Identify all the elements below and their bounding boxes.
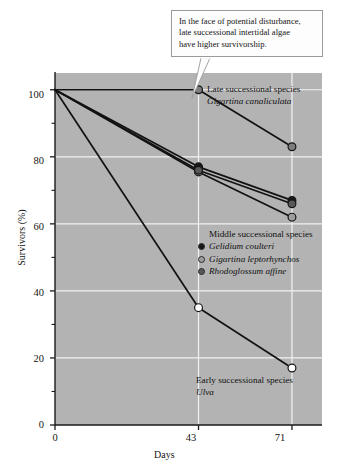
legend-marker-icon bbox=[198, 243, 205, 250]
annotation-early-successional: Early successional species Ulva bbox=[196, 375, 293, 398]
y-tick-label-0: 0 bbox=[18, 419, 44, 430]
x-tick-label-71: 71 bbox=[265, 432, 295, 443]
y-tick-label-20: 20 bbox=[18, 353, 44, 364]
x-tick-label-0: 0 bbox=[40, 432, 70, 443]
x-tick-label-43: 43 bbox=[176, 432, 206, 443]
callout-line-2: late successional intertidal algae bbox=[179, 27, 316, 38]
legend-marker-icon bbox=[198, 268, 205, 275]
legend-label: Gelidium coulteri bbox=[209, 240, 274, 252]
y-tick-label-80: 80 bbox=[18, 155, 44, 166]
legend-label: Gigartina leptorhynchos bbox=[209, 253, 299, 265]
legend-label: Rhodoglossum affine bbox=[209, 265, 286, 277]
figure-root: 100 80 60 40 20 0 0 43 71 Days Survivors… bbox=[0, 0, 341, 472]
legend-item-gelidium-coulteri: Gelidium coulteri bbox=[198, 240, 313, 252]
callout-box: In the face of potential disturbance, la… bbox=[171, 10, 323, 57]
callout-line-1: In the face of potential disturbance, bbox=[179, 16, 316, 27]
legend-marker-icon bbox=[198, 256, 205, 263]
legend-item-gigartina-leptorhynchos: Gigartina leptorhynchos bbox=[198, 253, 313, 265]
y-tick-label-100: 100 bbox=[18, 89, 44, 100]
legend-title: Middle successional species bbox=[209, 228, 313, 240]
legend-middle-successional: Middle successional species Gelidium cou… bbox=[198, 228, 313, 278]
annotation-early-species: Ulva bbox=[196, 387, 293, 399]
y-tick-label-40: 40 bbox=[18, 287, 44, 298]
annotation-early-title: Early successional species bbox=[196, 375, 293, 387]
callout-pointer bbox=[171, 58, 231, 100]
callout-line-3: have higher survivorship. bbox=[179, 39, 316, 50]
y-axis-title: Survivors (%) bbox=[16, 193, 27, 283]
legend-item-rhodoglossum-affine: Rhodoglossum affine bbox=[198, 265, 313, 277]
x-axis-title: Days bbox=[154, 449, 175, 460]
